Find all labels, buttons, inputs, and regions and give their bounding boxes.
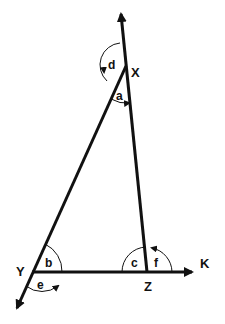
angle-label-c: c (131, 256, 138, 270)
angle-label-f: f (154, 256, 159, 270)
angle-label-a: a (116, 89, 123, 103)
angle-label-b: b (45, 256, 52, 270)
vertex-label-z: Z (144, 279, 152, 294)
angle-label-d: d (108, 58, 115, 72)
vertex-label-x: X (131, 65, 140, 80)
vertex-label-y: Y (16, 264, 25, 279)
point-label-k: K (200, 256, 210, 271)
side-zx-extended (121, 14, 147, 272)
triangle-diagram: X Y Z K a d b e c f (0, 0, 225, 324)
angle-label-e: e (37, 278, 44, 292)
